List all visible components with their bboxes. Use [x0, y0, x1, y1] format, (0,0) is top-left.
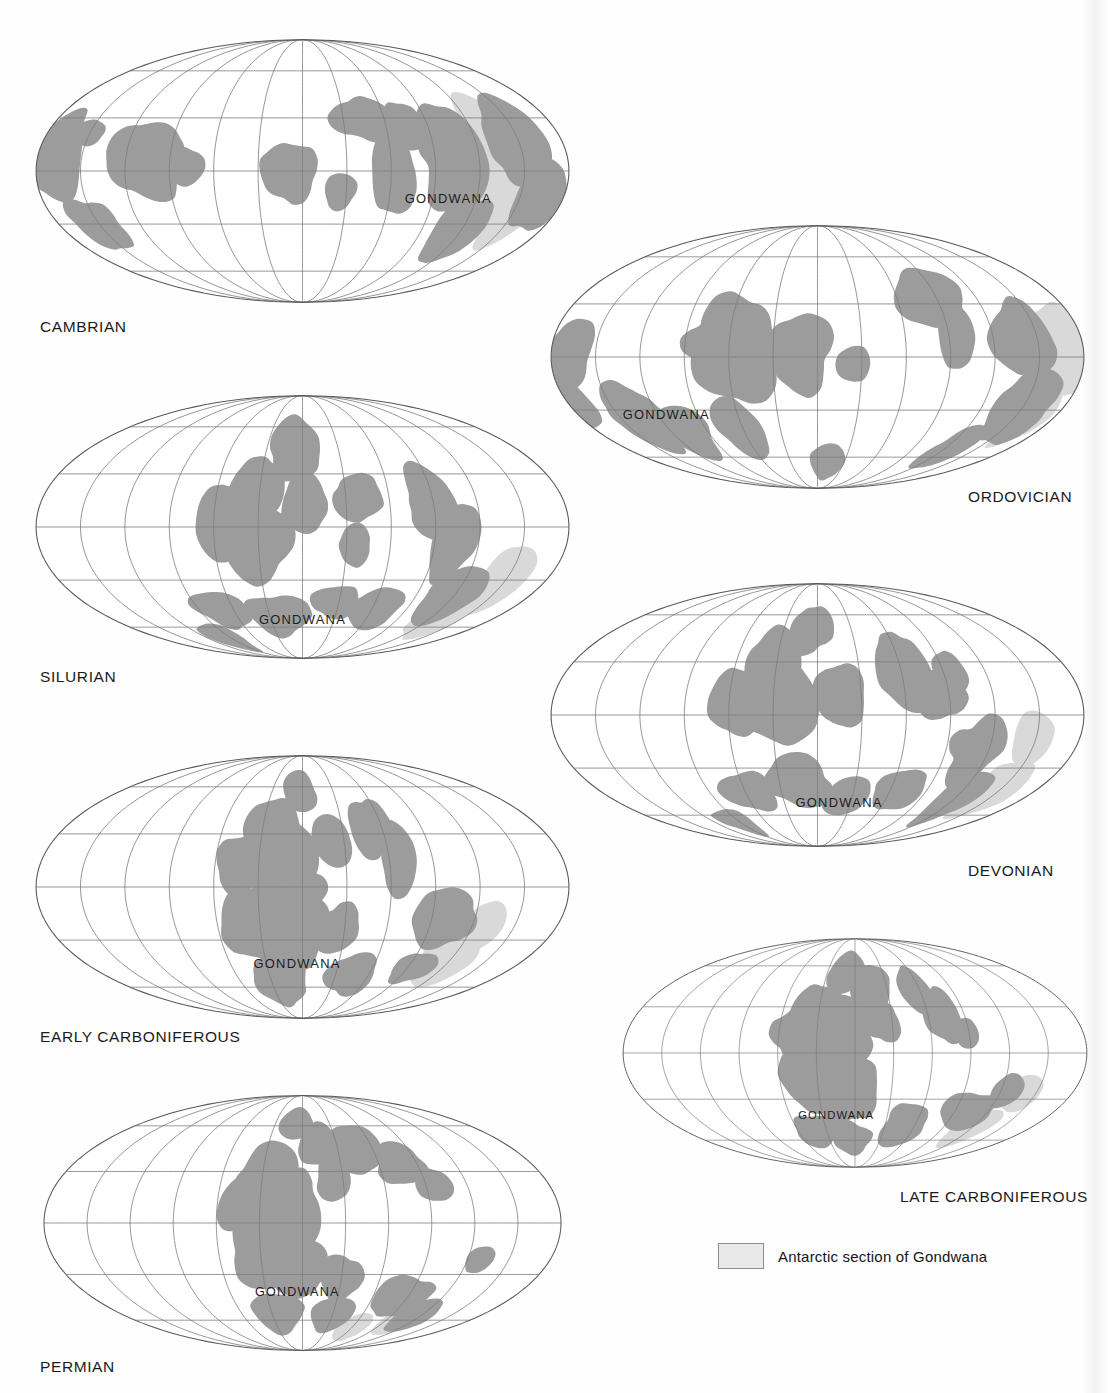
- map-svg-permian: GONDWANA: [30, 1092, 575, 1354]
- map-svg-ordovician: GONDWANA: [545, 222, 1090, 492]
- map-ordovician: GONDWANA: [545, 222, 1090, 492]
- map-svg-silurian: GONDWANA: [30, 392, 575, 662]
- gondwana-annotation: GONDWANA: [798, 1109, 874, 1121]
- gondwana-annotation: GONDWANA: [623, 407, 710, 422]
- map-permian: GONDWANA: [30, 1092, 575, 1354]
- map-svg-late-carboniferous: GONDWANA: [620, 928, 1090, 1178]
- map-cambrian: GONDWANA: [30, 36, 575, 306]
- legend: Antarctic section of Gondwana: [718, 1243, 987, 1269]
- map-svg-devonian: GONDWANA: [545, 580, 1090, 850]
- gondwana-annotation: GONDWANA: [259, 612, 346, 627]
- gondwana-annotation: GONDWANA: [795, 795, 882, 810]
- legend-label-antarctic: Antarctic section of Gondwana: [778, 1248, 987, 1265]
- map-svg-early-carboniferous: GONDWANA: [30, 752, 575, 1022]
- era-label-ordovician: ORDOVICIAN: [968, 488, 1072, 506]
- map-svg-cambrian: GONDWANA: [30, 36, 575, 306]
- era-label-early-carboniferous: EARLY CARBONIFEROUS: [40, 1028, 240, 1046]
- map-silurian: GONDWANA: [30, 392, 575, 662]
- era-label-silurian: SILURIAN: [40, 668, 116, 686]
- era-label-cambrian: CAMBRIAN: [40, 318, 127, 336]
- figure-page: GONDWANACAMBRIANGONDWANAORDOVICIANGONDWA…: [0, 0, 1108, 1393]
- gondwana-annotation: GONDWANA: [253, 956, 340, 971]
- era-label-devonian: DEVONIAN: [968, 862, 1054, 880]
- gondwana-annotation: GONDWANA: [255, 1285, 340, 1299]
- legend-swatch-antarctic: [718, 1243, 764, 1269]
- map-devonian: GONDWANA: [545, 580, 1090, 850]
- map-late-carboniferous: GONDWANA: [620, 928, 1090, 1178]
- era-label-permian: PERMIAN: [40, 1358, 115, 1376]
- gondwana-annotation: GONDWANA: [405, 191, 492, 206]
- map-early-carboniferous: GONDWANA: [30, 752, 575, 1022]
- era-label-late-carboniferous: LATE CARBONIFEROUS: [900, 1188, 1088, 1206]
